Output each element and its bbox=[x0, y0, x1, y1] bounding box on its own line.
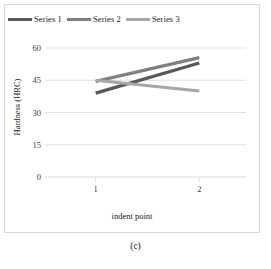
plot-area: 60 45 30 15 0 1 2 Hardness (HRC) indent … bbox=[4, 4, 260, 233]
y-tick-label-60: 60 bbox=[19, 43, 41, 53]
y-axis-title: Hardness (HRC) bbox=[12, 63, 22, 151]
figure-caption: (c) bbox=[0, 240, 271, 252]
y-tick-label-30: 30 bbox=[19, 108, 41, 118]
y-tick-label-15: 15 bbox=[19, 140, 41, 150]
y-tick-label-45: 45 bbox=[19, 75, 41, 85]
x-axis-title: indent point bbox=[4, 211, 260, 221]
figure-panel-c: Series 1 Series 2 Series 3 60 45 30 15 0… bbox=[0, 0, 271, 269]
y-tick-label-0: 0 bbox=[19, 172, 41, 182]
chart-canvas bbox=[4, 4, 260, 233]
x-tick-label-1: 1 bbox=[86, 184, 106, 194]
gridlines bbox=[45, 48, 246, 182]
x-tick-label-2: 2 bbox=[189, 184, 209, 194]
series-lines bbox=[96, 58, 200, 93]
